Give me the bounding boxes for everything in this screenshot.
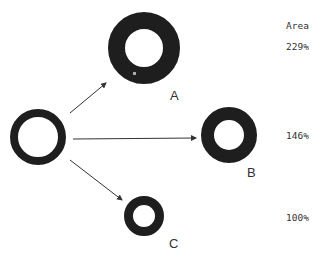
area-value-b: 146% — [286, 130, 309, 141]
ring-b — [208, 114, 251, 157]
area-header: Area — [286, 20, 309, 31]
area-value-c: 100% — [286, 212, 309, 223]
label-a: A — [170, 88, 179, 103]
arrow-to-b — [73, 138, 196, 139]
source-ring — [14, 113, 62, 161]
label-c: C — [169, 236, 178, 251]
arrow-to-a — [70, 83, 106, 113]
arrow-to-c — [70, 160, 122, 200]
ring-c — [129, 201, 160, 232]
ring-a-speck — [133, 72, 136, 75]
ring-a — [117, 21, 172, 76]
diagram-canvas — [0, 0, 324, 261]
area-value-a: 229% — [286, 41, 309, 52]
label-b: B — [247, 165, 256, 180]
